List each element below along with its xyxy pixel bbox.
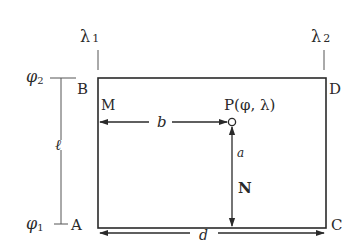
point-p-marker	[228, 118, 235, 125]
corner-b-label: B	[77, 80, 88, 98]
point-p-label: P(φ, λ)	[224, 96, 275, 114]
dimension-a-label: a	[237, 146, 244, 160]
point-m-label: M	[101, 97, 115, 113]
corner-d-label: D	[329, 80, 341, 98]
meridian-left-label: λ1	[80, 27, 99, 46]
dimension-d-label: d	[199, 227, 208, 243]
parallel-top-label: φ2	[26, 67, 44, 86]
corner-a-label: A	[70, 216, 82, 234]
map-sheet-rectangle	[98, 78, 326, 228]
height-label-l: ℓ	[55, 136, 61, 154]
corner-c-label: C	[331, 216, 342, 234]
parallel-bottom-label: φ1	[26, 214, 44, 233]
map-sheet-diagram: λ1 λ2 φ2 φ1 ℓ B D A C M P(φ, λ) N b a d	[0, 0, 360, 252]
point-n-label: N	[238, 179, 252, 197]
dimension-b-label: b	[157, 113, 167, 131]
meridian-right-label: λ2	[311, 27, 330, 46]
